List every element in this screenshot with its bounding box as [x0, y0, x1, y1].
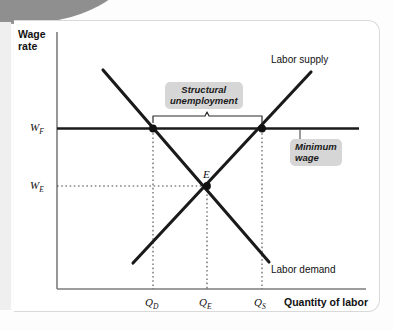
equilibrium-point-label: E — [203, 168, 210, 180]
figure-root: Wage rate Quantity of labor WF WE QD QE … — [0, 0, 393, 331]
labor-demand-label: Labor demand — [271, 264, 336, 275]
y-tick-wf-base: W — [30, 121, 39, 133]
x-tick-qs: QS — [254, 296, 266, 311]
marker-quantity-supplied — [258, 125, 266, 133]
y-tick-we: WE — [30, 179, 44, 194]
y-axis-title-line2: rate — [18, 41, 46, 53]
x-tick-qd-base: Q — [145, 296, 153, 308]
minimum-wage-line1: Minimum — [295, 141, 337, 152]
y-tick-we-sub: E — [39, 185, 44, 194]
structural-unemployment-brace — [153, 112, 262, 123]
x-tick-qe: QE — [199, 296, 212, 311]
structural-unemployment-line2: unemployment — [170, 95, 238, 106]
y-axis-title: Wage rate — [18, 29, 46, 52]
y-tick-we-base: W — [30, 179, 39, 191]
x-tick-qs-sub: S — [262, 302, 266, 311]
x-axis-title: Quantity of labor — [284, 296, 368, 308]
x-tick-qe-base: Q — [199, 296, 207, 308]
structural-unemployment-callout: Structural unemployment — [165, 82, 243, 109]
minimum-wage-callout: Minimum wage — [290, 139, 342, 166]
y-axis-title-line1: Wage — [18, 29, 46, 41]
x-tick-qs-base: Q — [254, 296, 262, 308]
y-tick-wf-sub: F — [39, 127, 44, 136]
y-tick-wf: WF — [30, 121, 44, 136]
x-tick-qe-sub: E — [207, 302, 212, 311]
structural-unemployment-line1: Structural — [170, 84, 238, 95]
x-tick-qd: QD — [145, 296, 158, 311]
marker-quantity-demanded — [149, 125, 157, 133]
labor-supply-label: Labor supply — [271, 54, 328, 65]
minimum-wage-line2: wage — [295, 152, 337, 163]
x-tick-qd-sub: D — [153, 302, 158, 311]
marker-equilibrium — [203, 182, 211, 190]
